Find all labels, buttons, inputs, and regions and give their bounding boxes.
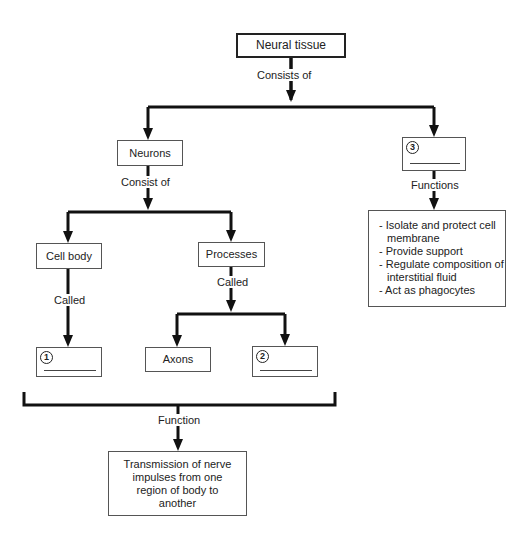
function-item: - Provide support [379, 245, 505, 258]
neurons-node: Neurons [117, 140, 183, 166]
function-item: - Regulate composition of interstitial f… [379, 258, 505, 284]
blank-node-3: 3 [402, 137, 466, 171]
processes-node: Processes [198, 242, 265, 267]
blank-node-1: 1 [36, 347, 102, 377]
processes-label: Processes [206, 248, 257, 261]
axons-label: Axons [163, 353, 194, 366]
number-3-badge: 3 [406, 141, 419, 154]
answer-line-1[interactable] [44, 370, 96, 371]
glia-functions-node: - Isolate and protect cell membrane - Pr… [368, 210, 506, 307]
axons-node: Axons [145, 347, 211, 372]
functions-list: - Isolate and protect cell membrane - Pr… [379, 219, 505, 297]
cell-body-called-label: Called [53, 294, 86, 306]
number-1-badge: 1 [40, 351, 53, 364]
consist-of-label: Consist of [120, 176, 171, 188]
function-item: - Isolate and protect cell membrane [379, 219, 505, 245]
transmission-node: Transmission of nerve impulses from one … [108, 451, 247, 516]
answer-line-3[interactable] [410, 163, 460, 164]
cell-body-label: Cell body [46, 250, 92, 263]
blank-node-2: 2 [252, 346, 318, 377]
neural-tissue-node: Neural tissue [236, 33, 346, 58]
number-2-badge: 2 [256, 350, 269, 363]
consists-of-label: Consists of [256, 69, 312, 81]
function-item: - Act as phagocytes [379, 284, 505, 297]
functions-label: Functions [410, 179, 460, 191]
function-label: Function [157, 414, 201, 426]
answer-line-2[interactable] [260, 370, 312, 371]
neurons-label: Neurons [129, 147, 171, 160]
transmission-label: Transmission of nerve impulses from one … [117, 458, 238, 510]
cell-body-node: Cell body [36, 243, 102, 269]
neural-tissue-label: Neural tissue [256, 39, 326, 52]
processes-called-label: Called [216, 276, 249, 288]
